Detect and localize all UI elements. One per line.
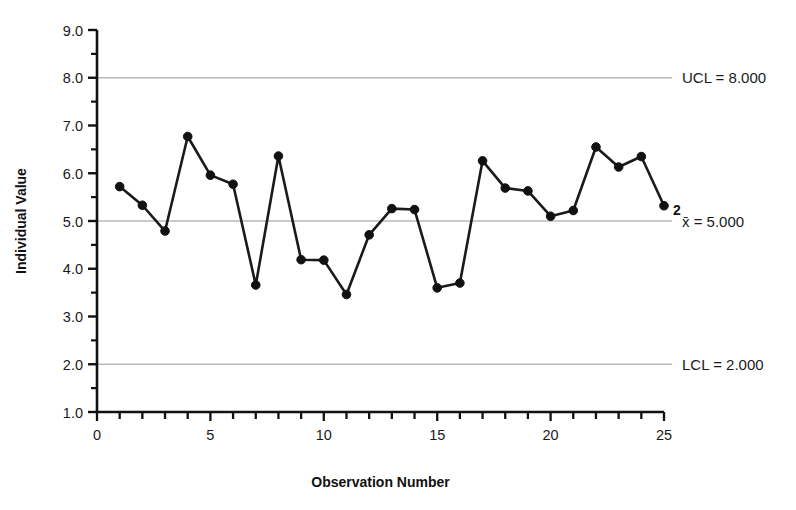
data-point-marker bbox=[251, 281, 260, 290]
chart-canvas: UCL = 8.000x̄ = 5.000LCL = 2.0001.02.03.… bbox=[0, 0, 796, 510]
data-point-marker bbox=[569, 206, 578, 215]
y-tick-label: 5.0 bbox=[63, 214, 83, 230]
data-point-marker bbox=[433, 284, 442, 293]
data-point-marker bbox=[592, 143, 601, 152]
data-series-group bbox=[115, 132, 668, 299]
x-tick-label: 10 bbox=[316, 427, 332, 443]
data-point-marker bbox=[660, 201, 669, 210]
data-point-marker bbox=[138, 201, 147, 210]
limit-label-ucl: UCL = 8.000 bbox=[682, 69, 766, 86]
y-tick-label: 2.0 bbox=[63, 357, 83, 373]
data-point-marker bbox=[161, 227, 170, 236]
y-tick-label: 3.0 bbox=[63, 309, 83, 325]
data-point-marker bbox=[478, 157, 487, 166]
limit-label-lcl: LCL = 2.000 bbox=[682, 356, 764, 373]
data-line bbox=[120, 136, 664, 294]
data-point-marker bbox=[342, 290, 351, 299]
x-tick-label: 0 bbox=[93, 427, 101, 443]
data-point-marker bbox=[183, 132, 192, 141]
x-axis-title: Observation Number bbox=[311, 474, 450, 490]
data-point-marker bbox=[546, 212, 555, 221]
y-tick-label: 1.0 bbox=[63, 405, 83, 421]
data-point-marker bbox=[297, 255, 306, 264]
data-point-marker bbox=[320, 256, 329, 265]
control-limit-lines bbox=[97, 78, 672, 365]
data-point-marker bbox=[388, 204, 397, 213]
violation-label: 2 bbox=[673, 202, 681, 218]
data-point-marker bbox=[524, 187, 533, 196]
data-point-marker bbox=[456, 279, 465, 288]
data-point-marker bbox=[365, 231, 374, 240]
data-point-marker bbox=[115, 182, 124, 191]
data-point-marker bbox=[410, 205, 419, 214]
data-point-marker bbox=[637, 152, 646, 161]
limit-label-center: x̄ = 5.000 bbox=[682, 213, 744, 230]
labels-group: UCL = 8.000x̄ = 5.000LCL = 2.0001.02.03.… bbox=[13, 23, 766, 491]
data-point-marker bbox=[274, 152, 283, 161]
control-chart: UCL = 8.000x̄ = 5.000LCL = 2.0001.02.03.… bbox=[0, 0, 796, 510]
data-point-marker bbox=[614, 163, 623, 172]
y-tick-label: 6.0 bbox=[63, 166, 83, 182]
x-tick-label: 20 bbox=[543, 427, 559, 443]
x-tick-label: 25 bbox=[656, 427, 672, 443]
x-tick-label: 15 bbox=[429, 427, 445, 443]
data-point-marker bbox=[206, 171, 215, 180]
x-tick-label: 5 bbox=[206, 427, 214, 443]
y-axis-title: Individual Value bbox=[13, 168, 29, 274]
y-tick-label: 7.0 bbox=[63, 118, 83, 134]
data-point-marker bbox=[501, 184, 510, 193]
y-tick-label: 8.0 bbox=[63, 70, 83, 86]
y-tick-label: 9.0 bbox=[63, 23, 83, 39]
data-point-marker bbox=[229, 180, 238, 189]
y-tick-label: 4.0 bbox=[63, 261, 83, 277]
